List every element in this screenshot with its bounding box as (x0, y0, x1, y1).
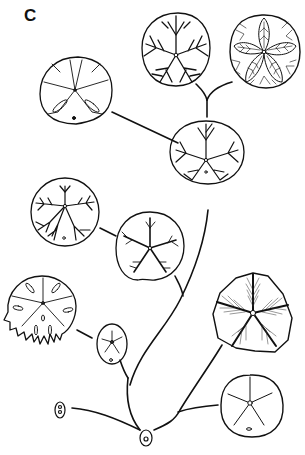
echinoid-top-dense-branching (142, 13, 210, 86)
branch-root-right-trunk (154, 345, 222, 430)
echinoid-small-star-oval (97, 324, 127, 364)
branch-root-to-star-oval (127, 378, 140, 430)
echinoid-lunules-two-slots (40, 57, 112, 124)
branch-lower-to-five-rays (100, 228, 116, 236)
echinoid-branching-five-rays (116, 212, 184, 280)
echinoid-simple-rays (221, 375, 283, 437)
panel-label: C (24, 6, 36, 26)
echinoid-lunulate-fringed (4, 276, 76, 344)
branch-main-trunk (130, 210, 208, 385)
echinoid-left-tiny-oval (55, 402, 65, 418)
phylogeny-figure: C (0, 0, 305, 455)
echinoid-branching-lower-spread (31, 178, 99, 246)
echinoid-root-small-oval (140, 430, 152, 446)
branch-to-lunules (112, 112, 178, 143)
phylogeny-svg (0, 0, 305, 455)
echinoid-top-ornate-petals (230, 15, 300, 88)
branch-top-left (196, 84, 207, 100)
branch-star-oval-stub (120, 360, 128, 378)
branch-top-right (207, 82, 232, 100)
lineage-branches (72, 82, 232, 430)
echinoid-shaded-pentagon (213, 273, 292, 352)
branch-fringed-to-star (77, 330, 92, 338)
echinoid-center-branched (170, 121, 244, 184)
branch-to-simple-rays (178, 405, 218, 412)
branch-to-five-rays (175, 276, 183, 296)
